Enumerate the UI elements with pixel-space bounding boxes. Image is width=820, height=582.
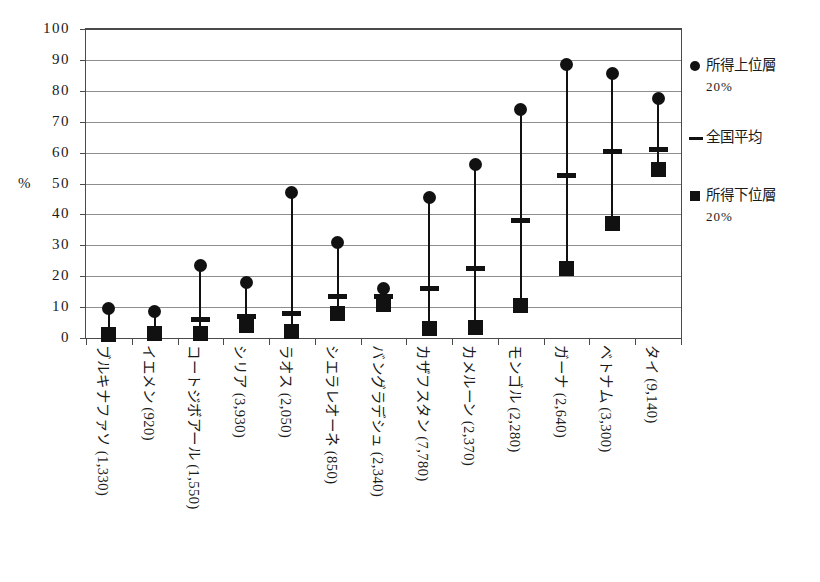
legend-entry: 所得下位層 (690, 185, 776, 206)
legend-label: 所得上位層 (706, 55, 776, 76)
marker-bottom-quintile (284, 324, 299, 339)
legend-entry: 全国平均 (690, 127, 762, 148)
marker-bottom-quintile (239, 318, 254, 333)
y-axis-tick-label: 50 (52, 174, 70, 191)
y-axis-tick (80, 60, 86, 61)
range-stem (337, 242, 339, 313)
x-axis-category-label: タイ (9,140) (643, 345, 664, 575)
marker-national-average (420, 286, 439, 291)
x-axis-tick (315, 338, 316, 345)
y-axis-tick-label: 20 (52, 267, 70, 284)
range-stem (657, 99, 659, 170)
gridline (86, 184, 681, 185)
legend-dash-icon (690, 127, 706, 148)
marker-national-average (237, 314, 256, 319)
plot-area (85, 28, 682, 339)
marker-bottom-quintile (330, 306, 345, 321)
legend-label: 所得下位層 (706, 185, 776, 206)
marker-bottom-quintile (468, 320, 483, 335)
marker-top-quintile (560, 58, 573, 71)
x-axis-category-label: ラオス (2,050) (277, 345, 298, 575)
y-axis-labels: % 1009080706050403020100 (0, 0, 78, 582)
marker-bottom-quintile (605, 216, 620, 231)
marker-bottom-quintile (513, 298, 528, 313)
y-axis-tick (80, 214, 86, 215)
y-axis-tick (80, 122, 86, 123)
gridline (86, 60, 681, 61)
x-axis-tick (406, 338, 407, 345)
gridline (86, 214, 681, 215)
legend-label: 全国平均 (706, 127, 762, 148)
y-axis-tick (80, 307, 86, 308)
marker-national-average (649, 147, 668, 152)
marker-top-quintile (331, 236, 344, 249)
marker-top-quintile (240, 276, 253, 289)
x-axis-tick (223, 338, 224, 345)
x-axis-tick (681, 338, 682, 345)
gridline (86, 153, 681, 154)
marker-national-average (328, 294, 347, 299)
x-axis-tick (544, 338, 545, 345)
marker-top-quintile (652, 92, 665, 105)
legend-sublabel: 20% (706, 209, 733, 225)
y-axis-tick-label: 40 (52, 205, 70, 222)
y-axis-tick (80, 29, 86, 30)
y-axis-tick-label: 100 (43, 20, 70, 37)
gridline (86, 91, 681, 92)
x-axis-category-label: シエラレオーネ (850) (323, 345, 344, 575)
x-axis-category-label: モンゴル (2,280) (506, 345, 527, 575)
range-stem (520, 109, 522, 305)
y-axis-tick-label: 0 (61, 329, 70, 346)
marker-top-quintile (102, 302, 115, 315)
y-axis-unit-label: % (18, 174, 32, 191)
legend-key-glyph (689, 137, 703, 140)
x-axis-category-label: バングラデシュ (2,340) (369, 345, 390, 575)
y-axis-tick-label: 90 (52, 50, 70, 67)
marker-top-quintile (285, 186, 298, 199)
x-axis-category-label: イエメン (920) (140, 345, 161, 575)
marker-bottom-quintile (147, 326, 162, 341)
y-axis-tick (80, 153, 86, 154)
range-stem (474, 165, 476, 327)
marker-top-quintile (377, 282, 390, 295)
marker-top-quintile (606, 67, 619, 80)
marker-national-average (466, 266, 485, 271)
marker-national-average (557, 173, 576, 178)
x-axis-tick (132, 338, 133, 345)
x-axis-tick (178, 338, 179, 345)
marker-top-quintile (514, 103, 527, 116)
range-stem (199, 265, 201, 333)
legend-square-icon (690, 185, 706, 206)
y-axis-tick (80, 184, 86, 185)
marker-national-average (191, 317, 210, 322)
marker-top-quintile (469, 158, 482, 171)
y-axis-tick-label: 10 (52, 298, 70, 315)
y-axis-tick (80, 91, 86, 92)
legend-circle-icon (690, 55, 706, 76)
marker-top-quintile (194, 259, 207, 272)
marker-national-average (603, 149, 622, 154)
y-axis-tick-label: 60 (52, 143, 70, 160)
x-axis-category-label: ブルキナファソ (1,330) (94, 345, 115, 575)
marker-bottom-quintile (422, 321, 437, 336)
marker-bottom-quintile (193, 326, 208, 341)
x-axis-tick (498, 338, 499, 345)
x-axis-category-label: カメルーン (2,370) (460, 345, 481, 575)
marker-national-average (511, 218, 530, 223)
legend-entry: 所得上位層 (690, 55, 776, 76)
x-axis-category-label: ベトナム (3,300) (597, 345, 618, 575)
x-axis-category-label: カザフスタン (7,780) (414, 345, 435, 575)
x-axis-category-label: コートジボアール (1,550) (185, 345, 206, 575)
marker-bottom-quintile (559, 261, 574, 276)
x-axis-labels: ブルキナファソ (1,330)イエメン (920)コートジボアール (1,550… (85, 345, 680, 580)
x-axis-category-label: シリア (3,930) (231, 345, 252, 575)
chart-root: % 1009080706050403020100 ブルキナファソ (1,330)… (0, 0, 820, 582)
x-axis-tick (635, 338, 636, 345)
x-axis-tick (589, 338, 590, 345)
range-stem (566, 65, 568, 269)
legend-sublabel: 20% (706, 79, 733, 95)
marker-top-quintile (423, 191, 436, 204)
x-axis-tick (452, 338, 453, 345)
range-stem (428, 197, 430, 328)
y-axis-tick (80, 276, 86, 277)
